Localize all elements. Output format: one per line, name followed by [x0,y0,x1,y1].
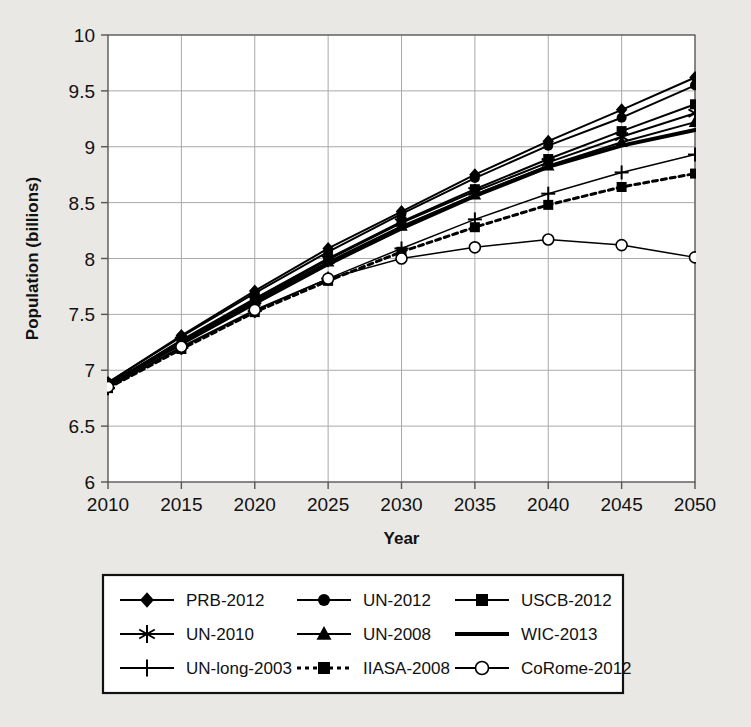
x-axis-title: Year [384,529,420,548]
marker-square [318,662,330,674]
legend-label: UN-long-2003 [186,659,292,678]
legend-label: PRB-2012 [186,591,264,610]
marker-open-circle [616,240,627,251]
y-tick-label: 9 [84,137,95,158]
marker-square [470,222,480,232]
marker-open-circle [323,273,334,284]
marker-open-circle [469,242,480,253]
legend-item-corome-2012[interactable]: CoRome-2012 [455,659,632,678]
population-projection-chart: 66.577.588.599.5102010201520202025203020… [0,0,751,727]
marker-circle [543,141,553,151]
y-tick-label: 6.5 [69,416,95,437]
x-axis: 201020152020202520302035204020452050 [87,482,716,515]
x-tick-label: 2025 [307,494,349,515]
chart-canvas: 66.577.588.599.5102010201520202025203020… [0,0,751,727]
marker-open-circle [543,234,554,245]
x-tick-label: 2030 [380,494,422,515]
x-tick-label: 2050 [674,494,716,515]
legend: PRB-2012UN-2012USCB-2012UN-2010UN-2008WI… [103,575,632,693]
marker-square [543,200,553,210]
y-tick-label: 10 [74,25,95,46]
marker-circle [470,173,480,183]
marker-open-circle [476,662,489,675]
x-tick-label: 2020 [234,494,276,515]
x-tick-label: 2015 [160,494,202,515]
x-tick-label: 2035 [454,494,496,515]
marker-open-circle [396,253,407,264]
y-tick-label: 7.5 [69,304,95,325]
marker-square [617,182,627,192]
legend-label: USCB-2012 [521,591,612,610]
y-tick-label: 8 [84,249,95,270]
marker-open-circle [176,341,187,352]
legend-label: UN-2012 [363,591,431,610]
marker-circle [617,113,627,123]
y-tick-label: 6 [84,472,95,493]
x-tick-label: 2045 [600,494,642,515]
legend-label: WIC-2013 [521,625,598,644]
marker-circle [318,594,330,606]
y-tick-label: 9.5 [69,81,95,102]
legend-label: IIASA-2008 [363,659,450,678]
x-tick-label: 2010 [87,494,129,515]
y-tick-label: 7 [84,360,95,381]
y-axis-title: Population (billions) [23,177,42,340]
marker-open-circle [249,304,260,315]
y-tick-label: 8.5 [69,193,95,214]
legend-label: UN-2008 [363,625,431,644]
x-tick-label: 2040 [527,494,569,515]
legend-label: UN-2010 [186,625,254,644]
legend-label: CoRome-2012 [521,659,632,678]
marker-square [476,594,488,606]
